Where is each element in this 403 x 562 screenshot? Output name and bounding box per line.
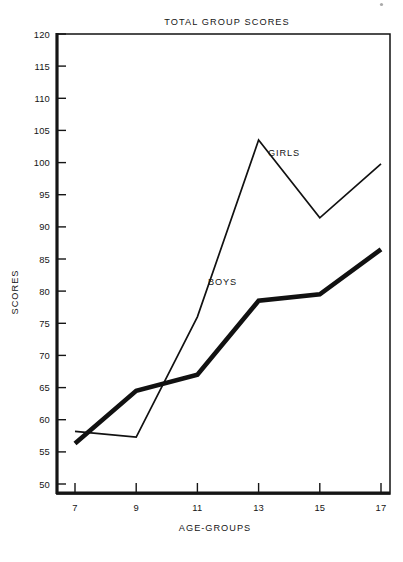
y-tick-label: 60 (39, 414, 50, 425)
line-chart: TOTAL GROUP SCORES 120 (0, 0, 403, 562)
scan-speck (380, 3, 383, 6)
y-tick-label: 90 (39, 221, 50, 232)
y-tick-label: 100 (34, 157, 50, 168)
x-tick-label: 9 (133, 502, 138, 513)
x-axis-title: AGE-GROUPS (179, 523, 251, 533)
x-tick-label: 17 (376, 502, 387, 513)
x-tick-label: 11 (192, 502, 202, 513)
chart-figure: TOTAL GROUP SCORES 120 (0, 0, 403, 562)
y-tick-label: 110 (34, 93, 50, 104)
y-tick-label: 70 (39, 350, 50, 361)
y-tick-label: 85 (39, 254, 50, 265)
y-tick-label: 115 (34, 61, 50, 72)
series-label-girls: GIRLS (268, 148, 300, 158)
y-axis-tick-labels: 120 115 110 105 100 95 90 85 80 75 70 65… (34, 29, 50, 490)
x-tick-label: 13 (253, 502, 264, 513)
y-tick-label: 65 (39, 382, 50, 393)
series-line-girls (75, 140, 381, 437)
y-tick-label: 95 (39, 189, 50, 200)
plot-frame (56, 33, 390, 494)
y-tick-label: 80 (39, 286, 50, 297)
y-tick-label: 50 (39, 479, 50, 490)
y-tick-label: 75 (39, 318, 50, 329)
x-tick-label: 15 (314, 502, 325, 513)
y-tick-label: 55 (39, 446, 50, 457)
y-tick-label: 105 (34, 125, 50, 136)
y-axis-title: SCORES (10, 270, 20, 315)
x-tick-label: 7 (72, 502, 77, 513)
y-tick-label: 120 (34, 29, 50, 40)
chart-title: TOTAL GROUP SCORES (164, 17, 290, 27)
x-axis-tick-labels: 7 9 11 13 15 17 (72, 502, 386, 513)
series-label-boys: BOYS (208, 277, 237, 287)
